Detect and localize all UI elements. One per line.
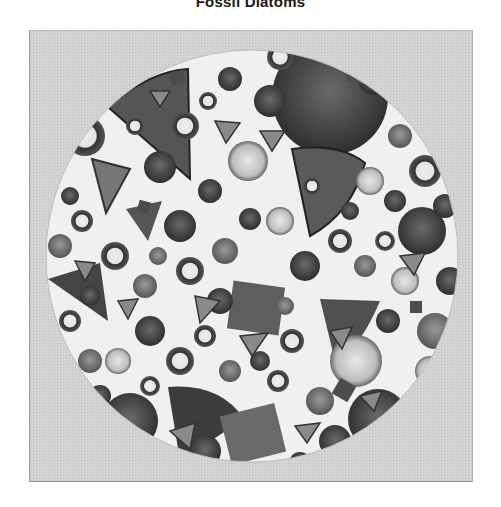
diatom-micrograph xyxy=(29,30,473,482)
diatom-arrangement xyxy=(30,31,473,482)
figure-title: Fossil Diatoms xyxy=(0,0,501,10)
